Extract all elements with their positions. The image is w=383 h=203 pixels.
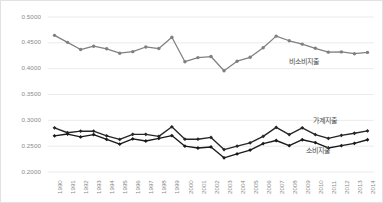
data-point <box>313 141 317 145</box>
y-tick-label: 0.2500 <box>7 143 41 149</box>
series-label-nonconsumption: 비소비지출 <box>289 58 319 65</box>
data-point <box>326 137 330 141</box>
data-point <box>183 60 186 63</box>
data-point <box>314 47 317 50</box>
data-point <box>118 51 121 54</box>
x-tick-label: 2004 <box>240 180 246 194</box>
data-point <box>235 59 238 62</box>
data-point <box>105 134 109 138</box>
data-point <box>92 133 96 137</box>
x-tick-label: 1993 <box>96 180 102 194</box>
data-point <box>79 48 82 51</box>
x-tick-label: 2007 <box>279 180 285 194</box>
data-point <box>288 39 291 42</box>
data-point <box>53 34 56 37</box>
y-tick-label: 0.4000 <box>7 65 41 71</box>
data-point <box>131 50 134 53</box>
series-line <box>55 35 368 70</box>
data-point <box>118 138 122 142</box>
x-tick-label: 2000 <box>188 180 194 194</box>
data-point <box>275 34 278 37</box>
chart-plot-area <box>1 1 383 203</box>
x-tick-label: 1994 <box>109 180 115 194</box>
data-point <box>53 134 57 138</box>
data-point <box>340 144 344 148</box>
data-point <box>92 129 96 133</box>
chart-container: 0.50000.45000.40000.35000.30000.25000.20… <box>0 0 383 203</box>
data-point <box>353 131 357 135</box>
data-point <box>144 45 147 48</box>
data-point <box>118 142 122 146</box>
data-point <box>131 137 135 141</box>
data-point <box>235 152 239 156</box>
x-tick-label: 2002 <box>214 180 220 194</box>
data-point <box>79 129 83 133</box>
data-point <box>105 47 108 50</box>
x-tick-label: 2003 <box>227 180 233 194</box>
data-point <box>79 135 83 139</box>
data-point <box>235 144 239 148</box>
data-point <box>209 55 212 58</box>
data-point <box>340 50 343 53</box>
x-tick-label: 1991 <box>70 180 76 194</box>
series-label-consumption: 소비지출 <box>306 147 330 154</box>
data-point <box>105 138 109 142</box>
data-point <box>144 132 148 136</box>
x-tick-label: 2005 <box>253 180 259 194</box>
data-point <box>53 126 57 130</box>
x-tick-label: 1998 <box>161 180 167 194</box>
y-tick-label: 0.2000 <box>7 169 41 175</box>
y-tick-label: 0.3000 <box>7 117 41 123</box>
x-tick-label: 1996 <box>135 180 141 194</box>
x-tick-label: 1990 <box>57 180 63 194</box>
series-label-household: 가계지출 <box>313 117 337 124</box>
data-point <box>366 51 369 54</box>
x-tick-label: 1999 <box>174 180 180 194</box>
data-point <box>353 141 357 145</box>
x-tick-label: 2013 <box>357 180 363 194</box>
data-point <box>66 41 69 44</box>
data-point <box>248 56 251 59</box>
data-point <box>261 46 264 49</box>
data-point <box>196 56 199 59</box>
y-tick-label: 0.3500 <box>7 91 41 97</box>
data-point <box>92 45 95 48</box>
data-point <box>157 47 160 50</box>
x-tick-label: 2010 <box>318 180 324 194</box>
data-point <box>366 138 370 142</box>
x-tick-label: 2011 <box>331 180 337 193</box>
data-point <box>274 139 278 143</box>
data-point <box>340 133 344 137</box>
x-tick-label: 2012 <box>344 180 350 194</box>
x-tick-label: 1992 <box>83 180 89 194</box>
x-tick-label: 2009 <box>305 180 311 194</box>
data-point <box>301 42 304 45</box>
y-tick-label: 0.4500 <box>7 39 41 45</box>
series-0 <box>53 34 369 73</box>
data-point <box>196 137 200 141</box>
x-tick-label: 2014 <box>370 180 376 194</box>
data-point <box>222 69 225 72</box>
x-tick-label: 1997 <box>148 180 154 194</box>
x-tick-label: 2001 <box>201 180 207 194</box>
data-point <box>366 129 370 133</box>
data-point <box>353 52 356 55</box>
data-point <box>157 137 161 141</box>
data-point <box>327 50 330 53</box>
data-point <box>131 132 135 136</box>
x-tick-label: 1995 <box>122 180 128 194</box>
x-tick-label: 2006 <box>266 180 272 194</box>
y-tick-label: 0.5000 <box>7 14 41 20</box>
x-tick-label: 2008 <box>292 180 298 194</box>
data-point <box>170 35 173 38</box>
data-point <box>144 139 148 143</box>
